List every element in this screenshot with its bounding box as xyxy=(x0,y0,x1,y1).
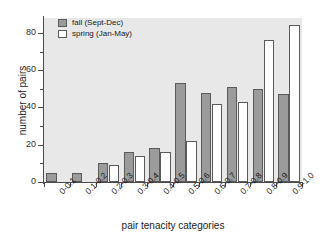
y-axis-title: number of pairs xyxy=(17,41,28,161)
bar-spring-0.6-0.7 xyxy=(212,104,223,182)
y-minor-tick-70 xyxy=(40,52,44,53)
legend-label-fall: fall (Sept-Dec) xyxy=(72,17,123,28)
bar-fall-0.8-0.9 xyxy=(253,89,264,182)
legend-swatch-spring-icon xyxy=(58,30,67,38)
y-tick-40 xyxy=(38,107,44,108)
legend-item-fall: fall (Sept-Dec) xyxy=(58,17,132,28)
bar-fall-0.7-0.8 xyxy=(227,87,238,182)
x-axis-title: pair tenacity categories xyxy=(44,220,302,231)
legend-item-spring: spring (Jan-May) xyxy=(58,28,132,39)
bar-spring-0.4-0.5 xyxy=(160,152,171,182)
y-minor-tick-10 xyxy=(40,163,44,164)
bar-chart-figure: 020406080 0-0.10.1-0.20.2-0.30.3-0.40.4-… xyxy=(0,0,320,239)
y-minor-tick-50 xyxy=(40,89,44,90)
bar-spring-0.9-1.0 xyxy=(289,25,300,182)
y-minor-tick-30 xyxy=(40,126,44,127)
x-tick-origin xyxy=(44,183,45,187)
y-tick-label-0: 0 xyxy=(0,177,36,186)
legend-swatch-fall-icon xyxy=(58,19,67,27)
bar-spring-0.3-0.4 xyxy=(135,156,146,182)
legend: fall (Sept-Dec) spring (Jan-May) xyxy=(58,17,132,39)
bar-fall-0.5-0.6 xyxy=(175,83,186,182)
bar-fall-0.6-0.7 xyxy=(201,93,212,182)
y-tick-60 xyxy=(38,70,44,71)
y-tick-label-80: 80 xyxy=(0,28,36,37)
bar-spring-0.8-0.9 xyxy=(264,40,275,182)
bar-fall-0-0.1 xyxy=(46,173,57,182)
y-axis-line xyxy=(43,16,44,184)
legend-label-spring: spring (Jan-May) xyxy=(72,28,132,39)
bar-spring-0.7-0.8 xyxy=(238,102,249,182)
bar-fall-0.9-1.0 xyxy=(278,94,289,182)
bar-spring-0.5-0.6 xyxy=(186,141,197,182)
y-tick-80 xyxy=(38,33,44,34)
y-tick-20 xyxy=(38,145,44,146)
